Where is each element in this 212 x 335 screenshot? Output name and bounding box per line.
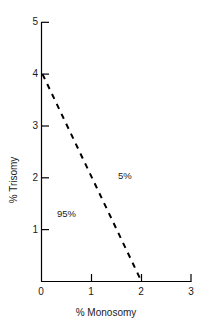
plot-area (0, 0, 212, 335)
y-tick-label-5: 5 (26, 17, 38, 27)
y-axis-ticks (42, 22, 50, 229)
x-axis-title: % Monosomy (0, 307, 212, 319)
x-axis-ticks (92, 274, 192, 282)
x-tick-label-3: 3 (184, 287, 198, 297)
y-tick-label-4: 4 (26, 69, 38, 79)
y-axis-title: % Trisomy (8, 130, 20, 230)
x-tick-label-1: 1 (84, 287, 98, 297)
y-tick-label-1: 1 (26, 225, 38, 235)
y-tick-label-3: 3 (26, 121, 38, 131)
annotation-5-percent: 5% (118, 171, 132, 181)
annotation-95-percent: 95% (57, 209, 76, 219)
x-tick-label-0: 0 (34, 287, 48, 297)
x-tick-label-2: 2 (134, 287, 148, 297)
chart-figure: 5 4 3 2 1 0 1 2 3 5% 95% % Monosomy % Tr… (0, 0, 212, 335)
y-tick-label-2: 2 (26, 173, 38, 183)
